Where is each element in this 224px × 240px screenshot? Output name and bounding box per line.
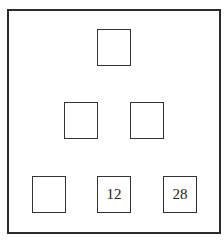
pyramid-cell-middle-right: [130, 102, 164, 139]
pyramid-cell-bottom-right: 28: [163, 176, 197, 213]
pyramid-cell-top: [97, 29, 131, 66]
pyramid-cell-bottom-left: [32, 176, 66, 213]
pyramid-cell-middle-left: [64, 102, 98, 139]
pyramid-cell-bottom-middle: 12: [97, 176, 131, 213]
